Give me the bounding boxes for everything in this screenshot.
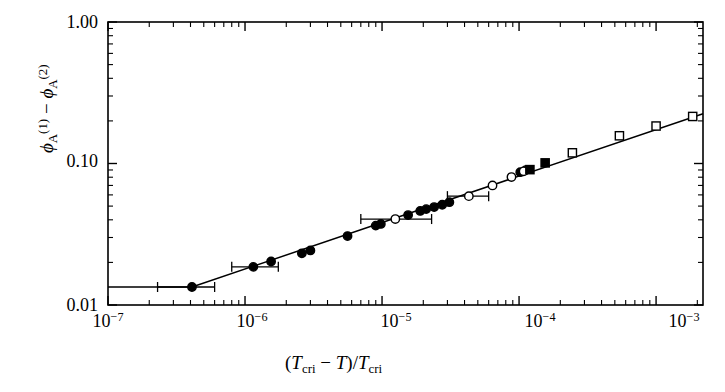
- data-point-filled-circle: [188, 283, 196, 291]
- data-point-filled-square: [526, 166, 534, 174]
- plot-frame: [108, 22, 703, 305]
- data-point-filled-circle: [306, 246, 314, 254]
- data-point-filled-square: [541, 159, 549, 167]
- figure-root: ϕA(1) − ϕA(2) (Tcri − T)/Tcri 1.00 0.10 …: [0, 0, 725, 392]
- data-point-open-circle: [465, 192, 473, 200]
- data-point-filled-circle: [377, 220, 385, 228]
- plot-area: [108, 22, 703, 305]
- data-point-filled-circle: [267, 257, 275, 265]
- data-point-filled-circle: [249, 263, 257, 271]
- data-point-filled-circle: [445, 198, 453, 206]
- data-point-open-square: [568, 149, 576, 157]
- plot-canvas: [0, 0, 725, 392]
- data-point-open-circle: [488, 181, 496, 189]
- data-point-open-square: [689, 112, 697, 120]
- data-point-open-circle: [507, 173, 515, 181]
- data-point-filled-circle: [422, 205, 430, 213]
- data-point-open-square: [652, 122, 660, 130]
- data-point-filled-circle: [343, 232, 351, 240]
- data-point-open-square: [615, 132, 623, 140]
- data-point-filled-circle: [430, 203, 438, 211]
- fit-line: [108, 114, 703, 287]
- data-point-open-circle: [391, 215, 399, 223]
- data-point-filled-circle: [404, 211, 412, 219]
- data-point-filled-circle: [298, 249, 306, 257]
